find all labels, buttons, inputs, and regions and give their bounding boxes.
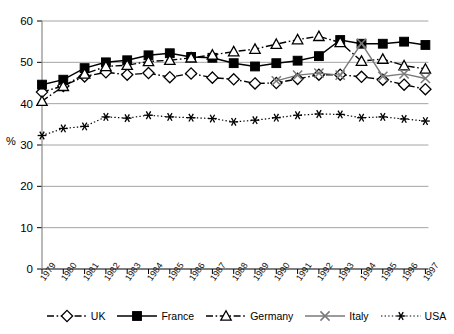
marker-open-triangle [314, 31, 324, 40]
marker-open-triangle [37, 96, 47, 105]
marker-open-diamond [356, 71, 367, 82]
marker-asterisk [208, 115, 217, 123]
marker-asterisk [396, 312, 405, 320]
chart-plot-area: 0102030405060 [0, 0, 454, 334]
marker-open-diamond [399, 79, 410, 90]
legend-label: UK [91, 311, 106, 322]
legend-swatch-usa [380, 309, 422, 323]
legend-item-uk[interactable]: UK [46, 309, 106, 323]
marker-open-triangle [292, 34, 302, 43]
y-axis-tick-label: 10 [20, 222, 33, 234]
legend-swatch-uk [46, 309, 88, 323]
series-usa [38, 110, 430, 139]
legend-label: France [161, 311, 194, 322]
marker-asterisk [315, 110, 324, 118]
marker-open-triangle [229, 46, 239, 55]
marker-asterisk [144, 111, 153, 119]
legend-item-germany[interactable]: Germany [205, 309, 293, 323]
legend-label: Germany [250, 311, 293, 322]
marker-open-diamond [313, 69, 324, 80]
marker-filled-square [229, 59, 238, 68]
legend-swatch-france [116, 309, 158, 323]
chart-legend: UKFranceGermanyItalyUSA [56, 305, 436, 327]
marker-open-diamond [271, 77, 282, 88]
legend-label: USA [425, 311, 447, 322]
marker-filled-square [133, 312, 142, 321]
marker-open-diamond [143, 67, 154, 78]
y-axis-tick-label: 60 [20, 15, 33, 27]
marker-open-diamond [228, 74, 239, 85]
marker-asterisk [357, 114, 366, 122]
y-axis-tick-label: 50 [20, 56, 33, 68]
marker-filled-square [272, 59, 281, 68]
legend-label: Italy [349, 311, 368, 322]
marker-filled-square [378, 39, 387, 48]
marker-filled-square [421, 41, 430, 50]
marker-asterisk [421, 117, 430, 125]
marker-open-diamond [164, 72, 175, 83]
marker-asterisk [102, 113, 111, 121]
marker-asterisk [293, 111, 302, 119]
marker-open-diamond [249, 78, 260, 89]
marker-open-triangle [378, 54, 388, 63]
marker-filled-square [315, 52, 324, 61]
series-germany [37, 31, 431, 105]
marker-asterisk [400, 115, 409, 123]
marker-filled-square [38, 80, 47, 89]
legend-swatch-italy [304, 309, 346, 323]
y-axis-tick-label: 30 [20, 139, 33, 151]
legend-item-italy[interactable]: Italy [304, 309, 368, 323]
marker-asterisk [187, 114, 196, 122]
legend-swatch-germany [205, 309, 247, 323]
marker-asterisk [59, 125, 68, 133]
line-chart: % 0102030405060 197919801981198219831984… [0, 0, 454, 334]
marker-open-diamond [186, 68, 197, 79]
marker-open-diamond [207, 72, 218, 83]
marker-asterisk [123, 114, 132, 122]
marker-asterisk [378, 113, 387, 121]
marker-asterisk [336, 111, 345, 119]
marker-asterisk [251, 116, 260, 124]
marker-open-diamond [122, 69, 133, 80]
marker-open-diamond [61, 310, 72, 321]
marker-filled-square [400, 37, 409, 46]
marker-asterisk [229, 118, 238, 126]
series-uk [36, 67, 431, 98]
series-line [42, 114, 425, 136]
marker-asterisk [272, 114, 281, 122]
y-axis-tick-label: 20 [20, 180, 33, 192]
legend-item-usa[interactable]: USA [380, 309, 447, 323]
y-axis-tick-label: 0 [27, 263, 33, 275]
marker-filled-square [293, 56, 302, 65]
marker-asterisk [165, 113, 174, 121]
marker-asterisk [80, 123, 89, 131]
marker-filled-square [251, 62, 260, 71]
marker-open-diamond [420, 84, 431, 95]
y-axis-tick-label: 40 [20, 98, 33, 110]
legend-item-france[interactable]: France [116, 309, 194, 323]
